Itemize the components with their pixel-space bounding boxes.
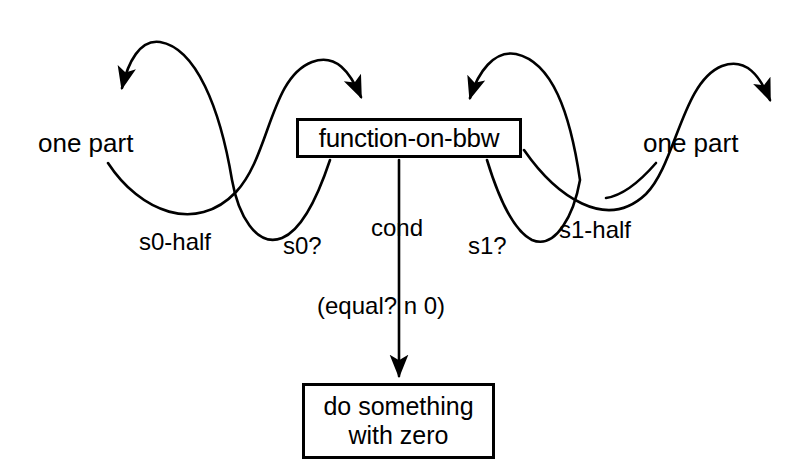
- diagram-canvas: function-on-bbw do something with zero o…: [0, 0, 801, 468]
- one-part-left-node: one part: [38, 128, 133, 159]
- zero-case-box[interactable]: do something with zero: [302, 383, 495, 459]
- edge-label-equal-test: (equal? n 0): [317, 292, 445, 320]
- function-box-label: function-on-bbw: [319, 123, 500, 154]
- edge-label-s1-question: s1?: [468, 232, 507, 260]
- one-part-right-node: one part: [643, 128, 738, 159]
- function-box[interactable]: function-on-bbw: [296, 118, 522, 158]
- edge-label-s0-half: s0-half: [139, 228, 211, 256]
- edge-label-cond: cond: [371, 214, 423, 242]
- zero-case-line-1: do something: [323, 392, 473, 422]
- edge-label-s1-half: s1-half: [559, 216, 631, 244]
- zero-case-line-2: with zero: [348, 421, 448, 451]
- edge-label-s0-question: s0?: [283, 232, 322, 260]
